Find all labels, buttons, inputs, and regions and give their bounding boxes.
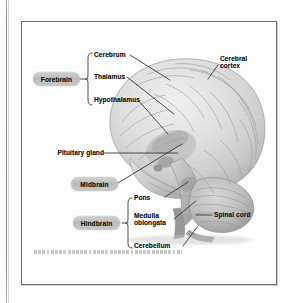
figure-credit-line: Adapted from Brain Facts, Society for Ne… [34,250,182,254]
label-cerebellum[interactable]: Cerebellum [134,242,170,249]
label-thalamus[interactable]: Thalamus [94,73,125,80]
figure-inner: Forebrain Midbrain Hindbrain Cerebrum Th… [22,22,276,284]
label-hypothalamus[interactable]: Hypothalamus [94,96,140,103]
label-spinal-cord[interactable]: Spinal cord [214,211,250,218]
division-pill-hindbrain[interactable]: Hindbrain [73,216,120,230]
page-gutter-rule-secondary [8,0,9,303]
label-cerebral-cortex[interactable]: Cerebral cortex [220,55,247,70]
figure-frame: Forebrain Midbrain Hindbrain Cerebrum Th… [21,21,277,285]
division-pill-forebrain[interactable]: Forebrain [33,72,80,86]
division-pill-midbrain[interactable]: Midbrain [71,177,118,191]
label-pituitary-gland[interactable]: Pituitary gland [32,149,104,156]
label-cerebrum[interactable]: Cerebrum [94,51,126,58]
label-pons[interactable]: Pons [134,194,150,201]
page-gutter-rule [6,0,7,303]
label-medulla-oblongata[interactable]: Medulla oblongata [134,212,166,227]
figure-page: Forebrain Midbrain Hindbrain Cerebrum Th… [0,0,292,303]
